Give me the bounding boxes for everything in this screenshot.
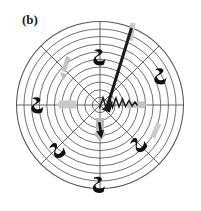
gray-arrow-ese-icon: [151, 122, 162, 139]
squiggle-s-icon: [93, 177, 105, 193]
polar-chart-canvas: [0, 0, 201, 211]
gray-marker-group: [56, 23, 161, 143]
gray-arrow-w-icon: [56, 100, 77, 110]
polar-figure: (b): [0, 0, 201, 211]
squiggle-wsw-icon: [48, 140, 68, 160]
squiggle-ene-icon: [154, 68, 166, 84]
